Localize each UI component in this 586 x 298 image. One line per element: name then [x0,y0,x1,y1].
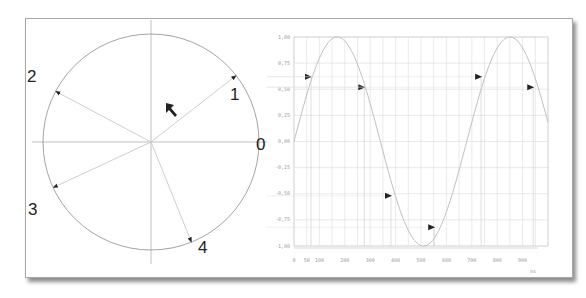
phasor-vector-3 [53,142,151,188]
x-tick-label: 300 [366,257,375,263]
y-tick-label: -0,50 [275,190,290,196]
x-tick-label: 100 [315,257,324,263]
phasor-vector-2 [56,91,151,142]
phasor-vector-1 [151,76,236,142]
phasor-label-3: 3 [28,200,37,219]
x-tick-label: 900 [518,257,527,263]
sine-chart: 1,000,750,500,250,00-0,25-0,50-0,75-1,00… [267,34,548,275]
x-tick-label: 0 [292,257,295,263]
phasor-label-4: 4 [198,238,207,257]
y-tick-label: -0,25 [275,164,290,170]
x-tick-label: 800 [493,257,502,263]
x-tick-label: 500 [416,257,425,263]
phasor-label-0: 0 [256,135,265,154]
x-unit-label: ns [530,268,536,274]
x-tick-label: 700 [467,257,476,263]
phasor-label-1: 1 [230,85,239,104]
phasor-vector-4 [151,142,191,242]
diagram-canvas: 01234 1,000,750,500,250,00-0,25-0,50-0,7… [0,0,586,298]
y-tick-label: 1,00 [278,34,290,40]
y-tick-label: -0,75 [275,216,290,222]
y-tick-label: 0,50 [278,86,290,92]
y-tick-label: -1,00 [275,243,290,249]
x-tick-label: 50 [304,257,310,263]
rotation-arrow-icon [166,103,177,117]
x-tick-label: 600 [442,257,451,263]
x-tick-label: 200 [340,257,349,263]
y-tick-label: 0,75 [278,60,290,66]
y-tick-label: 0,00 [278,138,290,144]
phasor-label-2: 2 [27,67,36,86]
y-tick-label: 0,25 [278,112,290,118]
phasor-diagram: 01234 [27,20,267,264]
x-tick-label: 400 [391,257,400,263]
